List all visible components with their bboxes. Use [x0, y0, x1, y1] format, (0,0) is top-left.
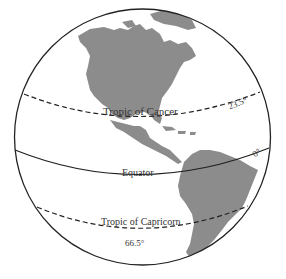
- caribbean-island: [190, 132, 196, 135]
- tropic-of-capricorn-label: Tropic of Capricorn: [101, 216, 181, 227]
- caribbean-island: [178, 131, 186, 134]
- globe-diagram: Tropic of Cancer 23.5° Equator 0° Tropic…: [0, 0, 286, 279]
- equator-label: Equator: [122, 167, 154, 178]
- tropic-of-capricorn-degree: 66.5°: [125, 238, 145, 248]
- tropic-of-cancer-label: Tropic of Cancer: [103, 105, 178, 117]
